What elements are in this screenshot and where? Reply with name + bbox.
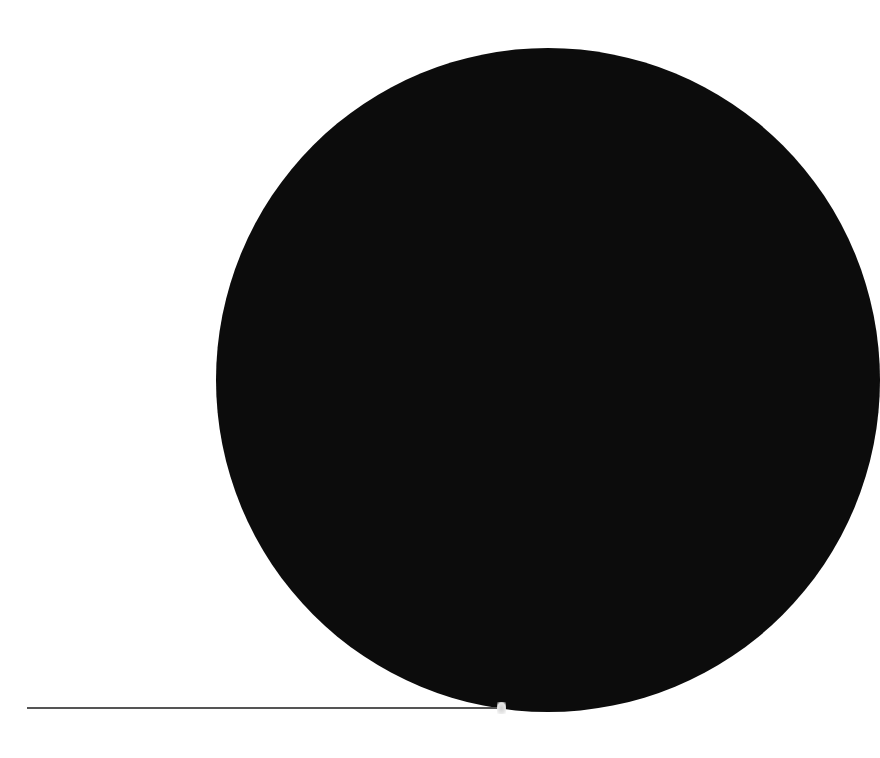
black-circle <box>216 48 880 712</box>
rule-end-smudge <box>497 702 506 714</box>
horizontal-rule <box>27 707 500 709</box>
